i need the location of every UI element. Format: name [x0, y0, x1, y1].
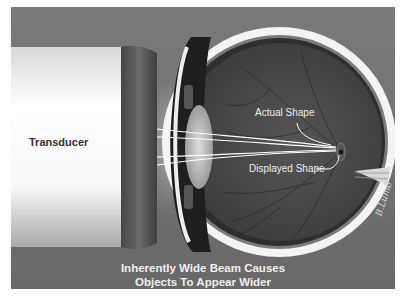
actual-shape-label: Actual Shape [255, 107, 315, 118]
transducer-label: Transducer [29, 136, 88, 148]
iris-lower [184, 185, 193, 209]
iris-upper [184, 85, 193, 109]
caption-line-1: Inherently Wide Beam Causes [11, 261, 395, 275]
caption: Inherently Wide Beam Causes Objects To A… [11, 261, 395, 289]
eye-illustration [11, 7, 395, 289]
crystalline-lens [185, 105, 213, 189]
diagram-frame: Transducer Actual Shape Displayed Shape … [11, 7, 395, 289]
transducer-face [121, 46, 157, 249]
displayed-shape-label: Displayed Shape [249, 163, 325, 174]
caption-line-2: Objects To Appear Wider [11, 275, 395, 289]
